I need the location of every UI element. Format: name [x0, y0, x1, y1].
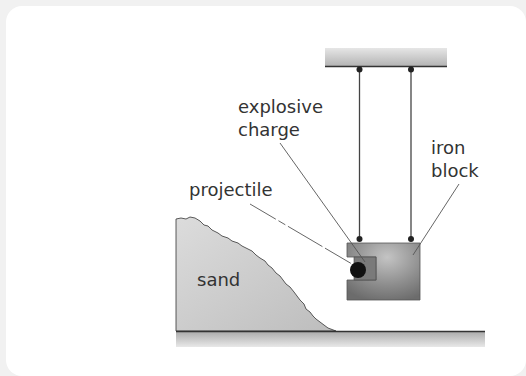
label-sand: sand — [197, 269, 240, 290]
label-explosive-line2: charge — [238, 119, 300, 140]
projectile — [350, 262, 366, 278]
label-iron-line1: iron — [431, 137, 465, 158]
label-projectile: projectile — [189, 179, 273, 200]
projectile-leader — [250, 204, 352, 264]
explosive-leader — [280, 143, 365, 262]
label-iron-line2: block — [431, 160, 479, 181]
label-explosive-line1: explosive — [238, 96, 323, 117]
suspension-strings — [357, 67, 415, 243]
ceiling-support — [325, 48, 447, 67]
iron-leader — [413, 184, 459, 255]
ground — [176, 331, 485, 347]
